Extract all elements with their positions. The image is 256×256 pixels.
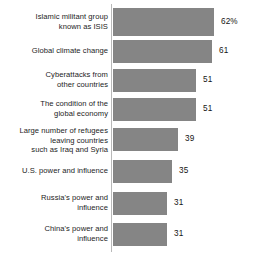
bar[interactable] <box>113 223 167 246</box>
category-label: Cyberattacks from other countries <box>0 70 108 89</box>
bar-track <box>113 98 196 121</box>
bar[interactable] <box>113 98 196 121</box>
bar-value-label: 39 <box>185 135 194 143</box>
bar-track <box>113 40 212 63</box>
bar-value-label: 31 <box>174 230 183 238</box>
category-label: Islamic militant group known as ISIS <box>0 12 108 31</box>
bar[interactable] <box>113 69 196 92</box>
bar-track <box>113 69 196 92</box>
bar[interactable] <box>113 128 178 151</box>
bar-track <box>113 8 214 36</box>
bar-value-label: 51 <box>203 76 212 84</box>
category-label: U.S. power and influence <box>0 166 108 176</box>
category-axis-line <box>111 4 112 252</box>
category-label: China's power and influence <box>0 224 108 243</box>
bar-track <box>113 128 178 151</box>
bar[interactable] <box>113 8 214 36</box>
category-label: Russia's power and influence <box>0 193 108 212</box>
bar-value-label: 31 <box>174 199 183 207</box>
category-label: Global climate change <box>0 46 108 56</box>
bar-value-label: 51 <box>203 105 212 113</box>
bar-value-label: 62% <box>221 18 238 26</box>
bar-value-label: 61 <box>219 47 228 55</box>
bar-track <box>113 223 167 246</box>
category-label: The condition of the global economy <box>0 99 108 118</box>
bar-chart: Islamic militant group known as ISIS 62%… <box>0 0 256 256</box>
bar-track <box>113 192 167 215</box>
category-label: Large number of refugees leaving countri… <box>0 126 108 155</box>
bar-track <box>113 160 172 183</box>
bar[interactable] <box>113 160 172 183</box>
bar-value-label: 35 <box>179 167 188 175</box>
bar[interactable] <box>113 40 212 63</box>
bar[interactable] <box>113 192 167 215</box>
